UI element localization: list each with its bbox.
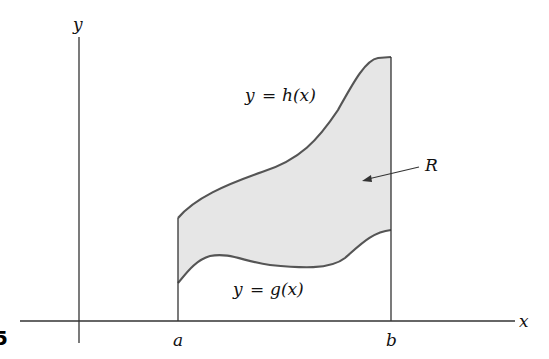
region-between-curves-figure: y x a b R y = h(x) y = g(x) 5 [0,0,549,359]
svg-text:=: = [250,279,264,299]
svg-text:h(x): h(x) [282,85,316,105]
region-label-r: R [424,155,438,175]
svg-text:=: = [262,85,276,105]
upper-curve-label: y = h(x) [244,85,316,105]
problem-number: 5 [0,326,8,350]
svg-text:g(x): g(x) [270,279,304,299]
bound-label-a: a [173,330,183,350]
svg-text:y: y [232,279,243,299]
x-axis-label: x [519,311,529,331]
bound-label-b: b [386,330,397,350]
lower-curve-label: y = g(x) [232,279,304,299]
svg-text:y: y [244,85,255,105]
y-axis-label: y [72,14,83,34]
